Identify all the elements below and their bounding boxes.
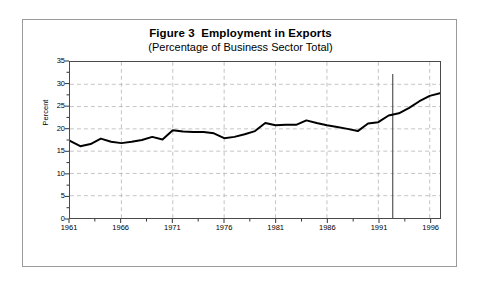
y-tick-label: 0: [43, 215, 65, 223]
y-tick-label: 30: [43, 80, 65, 88]
vertical-gridlines: [121, 62, 429, 218]
x-tick-label: 1971: [152, 223, 192, 232]
x-tick-label: 1991: [359, 223, 399, 232]
x-axis-tick-labels: 19611966197119761981198619911996: [69, 223, 441, 237]
x-tick-label: 1966: [101, 223, 141, 232]
title-block: Figure 3 Employment in Exports (Percenta…: [23, 26, 458, 54]
plot-area: [69, 61, 441, 219]
y-tick-label: 10: [43, 170, 65, 178]
x-tick-label: 1976: [204, 223, 244, 232]
chart-subtitle: (Percentage of Business Sector Total): [23, 40, 458, 54]
data-series-lines: [70, 93, 440, 146]
horizontal-gridlines: [70, 84, 440, 195]
x-tick-label: 1981: [256, 223, 296, 232]
figure-frame: Figure 3 Employment in Exports (Percenta…: [22, 19, 457, 267]
x-tick-label: 1996: [411, 223, 451, 232]
data-line-employment-in-exports: [70, 93, 440, 146]
plot-svg: [70, 62, 440, 218]
x-tick-label: 1986: [307, 223, 347, 232]
y-tick-label: 25: [43, 102, 65, 110]
y-tick-label: 35: [43, 57, 65, 65]
y-tick-label: 15: [43, 147, 65, 155]
chart-title: Figure 3 Employment in Exports: [23, 26, 458, 40]
x-tick-label: 1961: [49, 223, 89, 232]
y-tick-label: 5: [43, 192, 65, 200]
y-axis-tick-labels: 05101520253035: [39, 61, 65, 219]
y-tick-label: 20: [43, 125, 65, 133]
chart-screenshot: Figure 3 Employment in Exports (Percenta…: [0, 0, 478, 284]
